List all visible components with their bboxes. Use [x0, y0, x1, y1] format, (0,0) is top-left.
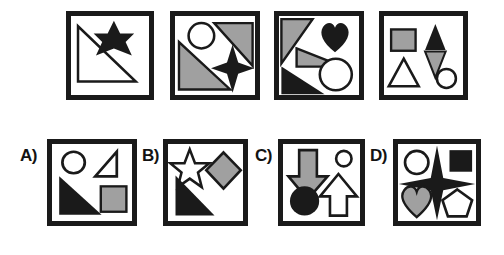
circle-outline	[189, 23, 215, 48]
triangle-outline	[389, 59, 419, 87]
option-c-art	[283, 144, 360, 221]
prompt-panel-3-art	[279, 16, 359, 95]
option-b-label: B)	[142, 147, 159, 164]
option-c-panel[interactable]	[278, 139, 365, 226]
prompt-panel-1-art	[71, 16, 149, 95]
option-a-panel[interactable]	[47, 139, 137, 226]
option-b-panel[interactable]	[163, 139, 248, 226]
heart	[402, 187, 431, 218]
prompt-panel-2-art	[175, 16, 255, 95]
option-a-label: A)	[20, 147, 37, 164]
triangle-up	[425, 24, 446, 50]
square	[101, 186, 127, 211]
right-triangle-filled	[59, 176, 101, 215]
prompt-panel-1[interactable]	[66, 11, 154, 100]
prompt-panel-3[interactable]	[274, 11, 364, 100]
square	[449, 150, 472, 172]
option-d-art	[398, 144, 476, 221]
small-circle-outline	[336, 151, 351, 166]
option-a-art	[52, 144, 132, 221]
circle-outline	[320, 59, 352, 91]
option-b-art	[168, 144, 243, 221]
triangle-lower-left	[281, 67, 324, 95]
option-d-panel[interactable]	[393, 139, 481, 226]
circle-outline	[437, 69, 456, 88]
option-d-label: D)	[370, 147, 387, 164]
prompt-panel-2[interactable]	[170, 11, 260, 100]
option-c-label: C)	[255, 147, 272, 164]
prompt-panel-4-art	[384, 16, 463, 95]
diamond	[206, 152, 241, 188]
circle-filled	[290, 186, 319, 215]
prompt-panel-4[interactable]	[379, 11, 468, 100]
pentagon-outline	[442, 189, 472, 216]
puzzle-stage: A) B) C) D)	[0, 0, 504, 255]
circle-outline	[62, 152, 84, 174]
right-triangle-outline	[95, 152, 117, 177]
six-pointed-star	[94, 21, 135, 56]
heart	[321, 23, 348, 52]
circle-outline	[405, 151, 428, 174]
square	[391, 29, 415, 50]
